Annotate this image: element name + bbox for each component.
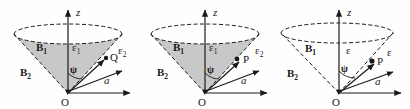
point-label: P — [243, 53, 249, 65]
region-inner-label: B1 — [305, 42, 316, 57]
region-outer-label: B2 — [20, 66, 31, 81]
z-axis-label: z — [346, 6, 352, 18]
origin-label: O — [332, 96, 340, 108]
permittivity-outer-label: ε2 — [118, 44, 127, 59]
point-marker — [369, 58, 374, 63]
z-axis-label: z — [212, 6, 218, 18]
point-label: P — [377, 55, 383, 67]
permittivity-inner-label: ε — [346, 44, 351, 56]
radial-axis-label: a — [104, 74, 110, 86]
cone-diagram-right: z O a B1 B2 ε ε ψ P — [273, 0, 410, 109]
radial-axis-label: a — [241, 74, 247, 86]
radial-measure-a — [343, 72, 393, 90]
z-axis-label: z — [75, 6, 81, 18]
cone-top-back-arc — [281, 23, 393, 33]
origin-label: O — [61, 96, 69, 108]
region-outer-label: B2 — [287, 67, 298, 82]
permittivity-outer-label: ε2 — [255, 44, 264, 59]
psi-angle-label: ψ — [341, 63, 348, 74]
point-marker — [235, 57, 240, 62]
cone-diagram-left: z O a B1 B2 ε1 ε2 ψ Q — [0, 0, 137, 109]
three-cone-diagrams-figure: z O a B1 B2 ε1 ε2 ψ Q — [0, 0, 410, 109]
cone-top-front-arc — [281, 33, 393, 43]
point-label: Q — [110, 51, 118, 63]
permittivity-outer-label: ε — [387, 46, 392, 58]
cone-diagram-middle: z O a B1 B2 ε1 ε2 ψ P — [137, 0, 274, 109]
origin-label: O — [198, 96, 206, 108]
region-outer-label: B2 — [157, 66, 168, 81]
psi-angle-label: ψ — [207, 64, 214, 75]
radial-axis-label: a — [375, 75, 381, 87]
psi-angle-label: ψ — [70, 64, 77, 75]
point-marker — [104, 56, 108, 60]
